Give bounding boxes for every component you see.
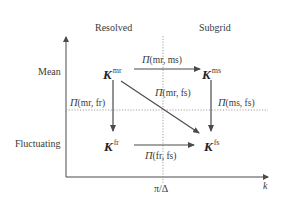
transfer-label-mr-fs: Π(mr, fs): [155, 88, 191, 99]
column-header-resolved: Resolved: [95, 23, 132, 33]
transfer-label-ms-fs: Π(ms, fs): [218, 98, 255, 109]
node-k-fs: Kfs: [204, 139, 219, 153]
node-k-mr-superscript: mr: [113, 66, 122, 75]
cutoff-label: π/Δ: [154, 184, 168, 194]
transfer-label-fr-fs: Π(fr, fs): [145, 151, 176, 162]
node-k-fr-superscript: fr: [114, 138, 119, 147]
energy-transfer-diagram: Resolved Subgrid Mean Fluctuating Kmr Km…: [0, 0, 282, 201]
node-k-ms-superscript: ms: [212, 66, 221, 75]
node-k-mr: Kmr: [103, 67, 122, 81]
node-k-fr: Kfr: [104, 139, 119, 153]
row-header-mean: Mean: [38, 67, 61, 77]
column-header-subgrid: Subgrid: [199, 23, 231, 33]
node-k-fs-superscript: fs: [214, 138, 220, 147]
transfer-label-mr-ms: Π(mr, ms): [142, 55, 182, 66]
row-header-fluctuating: Fluctuating: [15, 139, 61, 149]
transfer-label-mr-fr: Π(mr, fr): [70, 98, 105, 109]
node-k-ms: Kms: [202, 67, 221, 81]
x-axis-label: k: [263, 181, 267, 191]
